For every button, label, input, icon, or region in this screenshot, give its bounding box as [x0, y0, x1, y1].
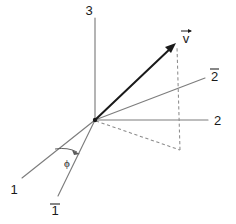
axis-1-bar-label: 1	[51, 203, 58, 218]
axis-2-label: 2	[214, 113, 221, 128]
axis-1-group: 1	[10, 120, 95, 197]
axis-3-label: 3	[85, 3, 92, 18]
axis-2-bar-line	[95, 78, 205, 120]
axis-3-group: 3	[85, 3, 95, 120]
projection-group	[96, 47, 180, 150]
axis-1-label: 1	[10, 182, 17, 197]
vector-diagram-figure: 3 2 2 1 1	[0, 0, 236, 224]
axis-1-bar-group: 1	[50, 120, 95, 218]
angle-phi-label: ϕ	[64, 157, 70, 169]
projection-in-plane-line	[96, 121, 180, 150]
vector-v-line	[95, 47, 172, 120]
origin-point	[93, 118, 97, 122]
axis-2-bar-label: 2	[211, 69, 218, 84]
coordinate-vector-diagram: 3 2 2 1 1	[0, 0, 236, 224]
axis-2-group: 2	[95, 113, 221, 128]
projection-vertical-line	[177, 47, 180, 150]
axis-2-bar-group: 2	[95, 69, 219, 120]
vector-v-label: v	[183, 31, 190, 46]
